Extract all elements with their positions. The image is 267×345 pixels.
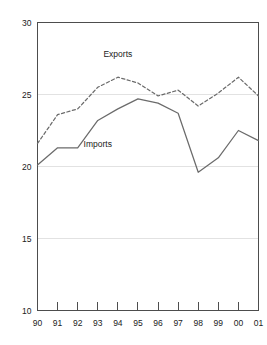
x-tick-label-92: 92: [73, 318, 83, 328]
axis-tick-marks: [38, 302, 259, 311]
chart-container: 3025201510 909192939495969798990001 Expo…: [0, 0, 267, 345]
x-tick-label-93: 93: [93, 318, 103, 328]
x-tick-label-90: 90: [33, 318, 43, 328]
x-tick-label-01: 01: [254, 318, 264, 328]
x-tick-label-99: 99: [214, 318, 224, 328]
series-annotations: ExportsImports: [84, 49, 133, 149]
gridlines: [38, 95, 259, 239]
y-tick-label-15: 15: [22, 234, 32, 244]
y-tick-label-20: 20: [22, 162, 32, 172]
annotation-imports: Imports: [84, 139, 112, 149]
y-tick-label-10: 10: [22, 306, 32, 316]
x-tick-label-98: 98: [193, 318, 203, 328]
x-tick-label-00: 00: [234, 318, 244, 328]
y-tick-label-30: 30: [22, 18, 32, 28]
x-tick-label-96: 96: [153, 318, 163, 328]
y-tick-label-25: 25: [22, 90, 32, 100]
series-line-exports: [38, 77, 259, 143]
annotation-exports: Exports: [103, 49, 132, 59]
x-tick-label-97: 97: [173, 318, 183, 328]
y-axis-tick-labels: 3025201510: [22, 18, 32, 316]
x-tick-label-94: 94: [113, 318, 123, 328]
data-series: [38, 77, 259, 172]
x-tick-label-95: 95: [133, 318, 143, 328]
line-chart: 3025201510 909192939495969798990001 Expo…: [0, 0, 267, 345]
series-line-imports: [38, 99, 259, 172]
x-tick-label-91: 91: [53, 318, 63, 328]
x-axis-tick-labels: 909192939495969798990001: [33, 318, 264, 328]
